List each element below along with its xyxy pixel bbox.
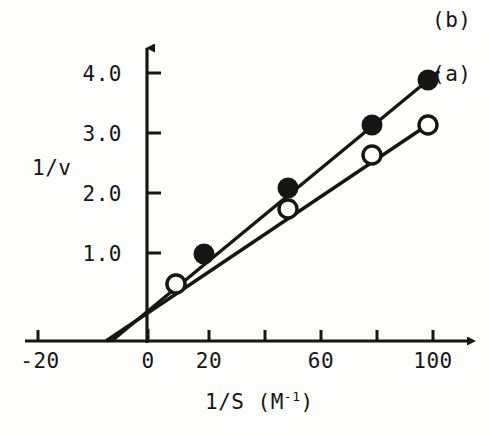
x-tick-label-100: 100 (401, 349, 465, 373)
data-point-a-4 (363, 146, 381, 164)
y-axis (147, 48, 161, 343)
y-tick-label-3: 3.0 (50, 122, 122, 146)
series-b-line (112, 71, 440, 341)
y-axis-label: 1/v (32, 156, 71, 180)
data-point-a-1 (167, 275, 185, 293)
data-point-b-3 (279, 179, 298, 198)
x-axis-label-paren: ) (301, 390, 314, 414)
x-tick-label-20: 20 (183, 349, 235, 373)
data-point-b-4 (363, 116, 382, 135)
series-a-line (106, 119, 436, 341)
x-axis (25, 329, 468, 341)
y-tick-label-2: 2.0 (50, 182, 122, 206)
data-point-a-5 (419, 116, 437, 134)
data-point-b-2 (195, 245, 214, 264)
lineweaver-burk-figure: 4.0 3.0 2.0 1.0 1/v -20 0 20 60 100 1/S … (0, 0, 490, 436)
x-axis-label-base: 1/S (M (205, 390, 284, 414)
y-tick-label-4: 4.0 (50, 62, 122, 86)
x-tick-label-0: 0 (128, 349, 168, 373)
x-tick-label--20: -20 (8, 349, 72, 373)
x-tick-label-60: 60 (295, 349, 347, 373)
y-tick-label-1: 1.0 (50, 242, 122, 266)
series-label-a: (a) (432, 62, 471, 86)
x-axis-label: 1/S (M-1) (205, 389, 314, 414)
data-point-a-3 (279, 200, 297, 218)
x-axis-label-exponent: -1 (284, 389, 301, 404)
series-a-markers (167, 116, 437, 293)
series-label-b: (b) (432, 8, 471, 32)
